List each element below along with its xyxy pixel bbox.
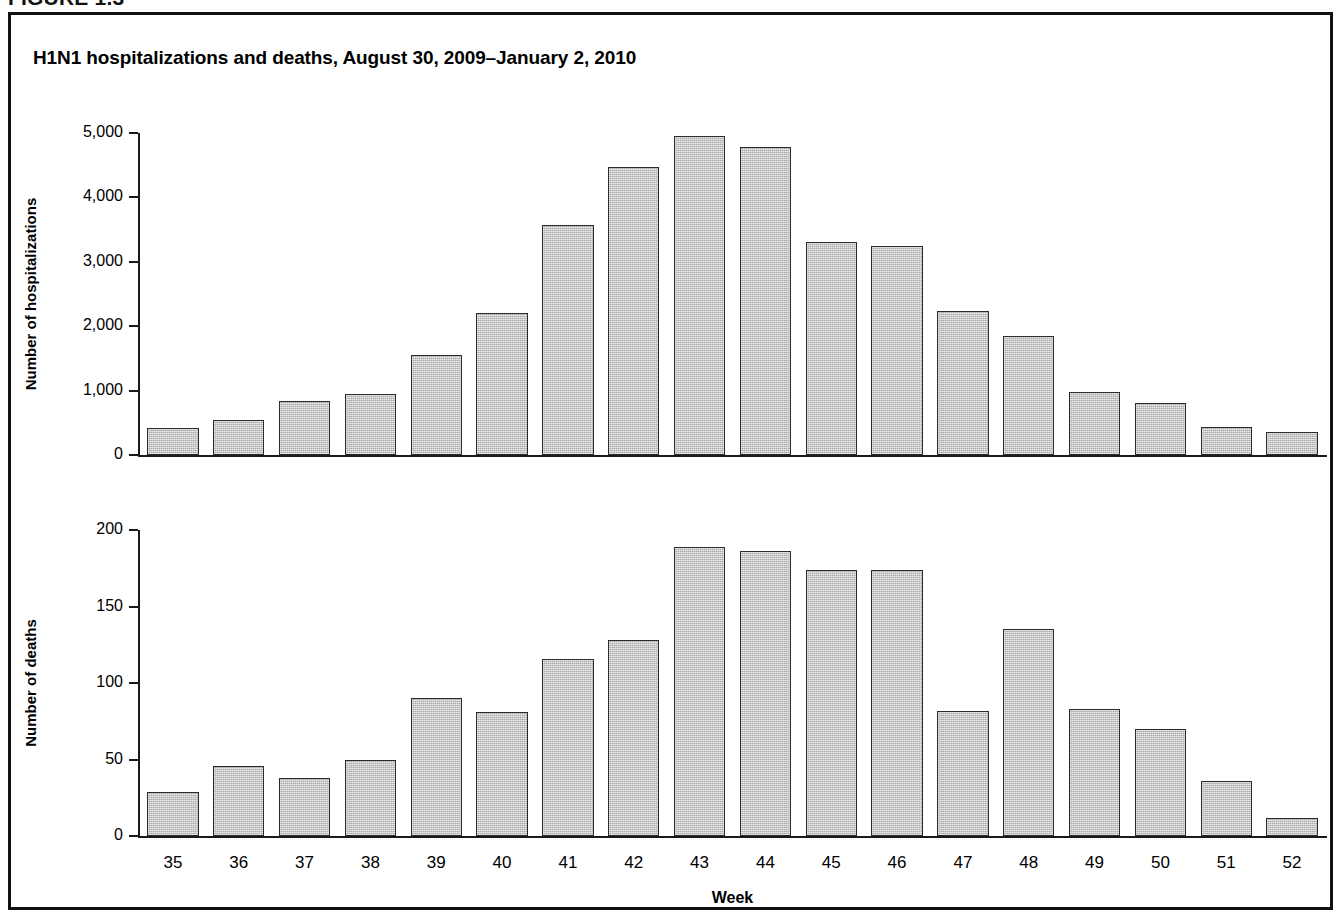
y-axis-tick [129, 682, 138, 684]
x-axis-tick-label: 47 [933, 853, 993, 873]
bar[interactable] [608, 640, 659, 836]
bar[interactable] [1266, 818, 1317, 836]
bar[interactable] [279, 778, 330, 836]
x-axis-tick-label: 45 [801, 853, 861, 873]
x-axis-tick-label: 43 [670, 853, 730, 873]
bar[interactable] [1003, 629, 1054, 836]
x-axis-label-week: Week [140, 889, 1325, 907]
bar[interactable] [1069, 709, 1120, 836]
y-axis-tick [129, 529, 138, 531]
y-axis-tick-label: 0 [35, 826, 123, 844]
figure-number-header: FIGURE 1.3 [8, 0, 124, 10]
y-axis-tick [129, 606, 138, 608]
y-axis-tick [129, 759, 138, 761]
x-axis-tick-label: 42 [604, 853, 664, 873]
x-axis-tick-label: 46 [867, 853, 927, 873]
x-axis-tick-label: 38 [340, 853, 400, 873]
bar[interactable] [740, 551, 791, 836]
bar[interactable] [1201, 781, 1252, 836]
x-axis-line [138, 836, 1327, 838]
x-axis-tick-label: 52 [1262, 853, 1322, 873]
bar[interactable] [345, 760, 396, 837]
bar[interactable] [147, 792, 198, 836]
x-axis-tick-label: 35 [143, 853, 203, 873]
bar[interactable] [674, 547, 725, 836]
bar[interactable] [871, 570, 922, 836]
bar[interactable] [542, 659, 593, 836]
deaths-plot-area: 050100150200 [140, 530, 1325, 836]
bar[interactable] [937, 711, 988, 836]
deaths-chart-panel: Number of deaths 050100150200 [11, 15, 1330, 907]
bar[interactable] [806, 570, 857, 836]
figure-frame: H1N1 hospitalizations and deaths, August… [8, 12, 1333, 910]
x-axis-tick-label: 36 [209, 853, 269, 873]
x-axis-tick-label: 41 [538, 853, 598, 873]
x-axis-tick-label: 44 [735, 853, 795, 873]
y-axis-tick-label: 200 [35, 520, 123, 538]
y-axis-tick-label: 150 [35, 597, 123, 615]
y-axis-line [138, 530, 140, 838]
y-axis-tick [129, 835, 138, 837]
bar[interactable] [1135, 729, 1186, 836]
x-axis-tick-label: 49 [1065, 853, 1125, 873]
y-axis-tick-label: 100 [35, 673, 123, 691]
y-axis-tick-label: 50 [35, 750, 123, 768]
x-axis-tick-label: 37 [275, 853, 335, 873]
x-axis-tick-label: 40 [472, 853, 532, 873]
x-axis-tick-label: 50 [1130, 853, 1190, 873]
x-axis-tick-label: 51 [1196, 853, 1256, 873]
bar[interactable] [476, 712, 527, 836]
bar[interactable] [411, 698, 462, 836]
x-axis-tick-label: 48 [999, 853, 1059, 873]
bar[interactable] [213, 766, 264, 836]
x-axis-tick-label: 39 [406, 853, 466, 873]
